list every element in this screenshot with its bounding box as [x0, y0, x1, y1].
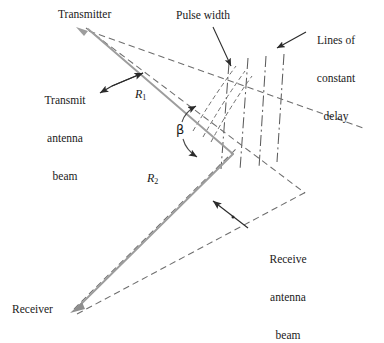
transmit-antenna-beam-line1: Transmit — [28, 94, 102, 107]
pulse-width-label: Pulse width — [176, 9, 230, 22]
receiver-label: Receiver — [12, 303, 53, 316]
transmitter-label: Transmitter — [58, 8, 111, 21]
lines-of-constant-delay-line3: delay — [300, 110, 372, 123]
delay-line-3 — [259, 56, 266, 168]
receive-beam-arrow-dot — [232, 216, 235, 219]
lines-of-constant-delay-label: Lines of constant delay — [300, 9, 372, 148]
transmit-antenna-beam-label: Transmit antenna beam — [28, 69, 102, 208]
receive-antenna-beam-line2: antenna — [253, 291, 323, 304]
lines-of-constant-delay-line1: Lines of — [300, 34, 372, 47]
delay-line-1 — [221, 63, 229, 169]
receive-antenna-beam-line1: Receive — [253, 253, 323, 266]
range-r1-subscript: 1 — [142, 93, 146, 102]
receive-antenna-beam-line3: beam — [253, 329, 323, 342]
range-r2-label: R2 — [147, 172, 158, 189]
range-line-r1 — [88, 29, 233, 154]
bistatic-angle-label: β — [176, 124, 184, 137]
receive-beam-arrow-shaft — [213, 201, 248, 228]
transmit-beam-lower-edge — [86, 28, 305, 193]
delay-line-4 — [277, 54, 284, 162]
receive-beam-leader-arrow — [213, 201, 248, 228]
beta-arrow-lower — [183, 139, 197, 157]
range-r2-subscript: 2 — [154, 177, 158, 186]
pulse-width-arc-inner — [193, 66, 236, 131]
lines-of-constant-delay-line2: constant — [300, 72, 372, 85]
receive-antenna-beam-label: Receive antenna beam — [253, 228, 323, 343]
transmit-antenna-beam-line2: antenna — [28, 132, 102, 145]
transmit-antenna-beam-line3: beam — [28, 170, 102, 183]
delay-line-2 — [240, 58, 248, 170]
transmit-beam-arrow-shaft — [112, 73, 143, 86]
pulse-width-leader-arrow — [213, 27, 231, 66]
range-r1-label: R1 — [135, 88, 146, 105]
